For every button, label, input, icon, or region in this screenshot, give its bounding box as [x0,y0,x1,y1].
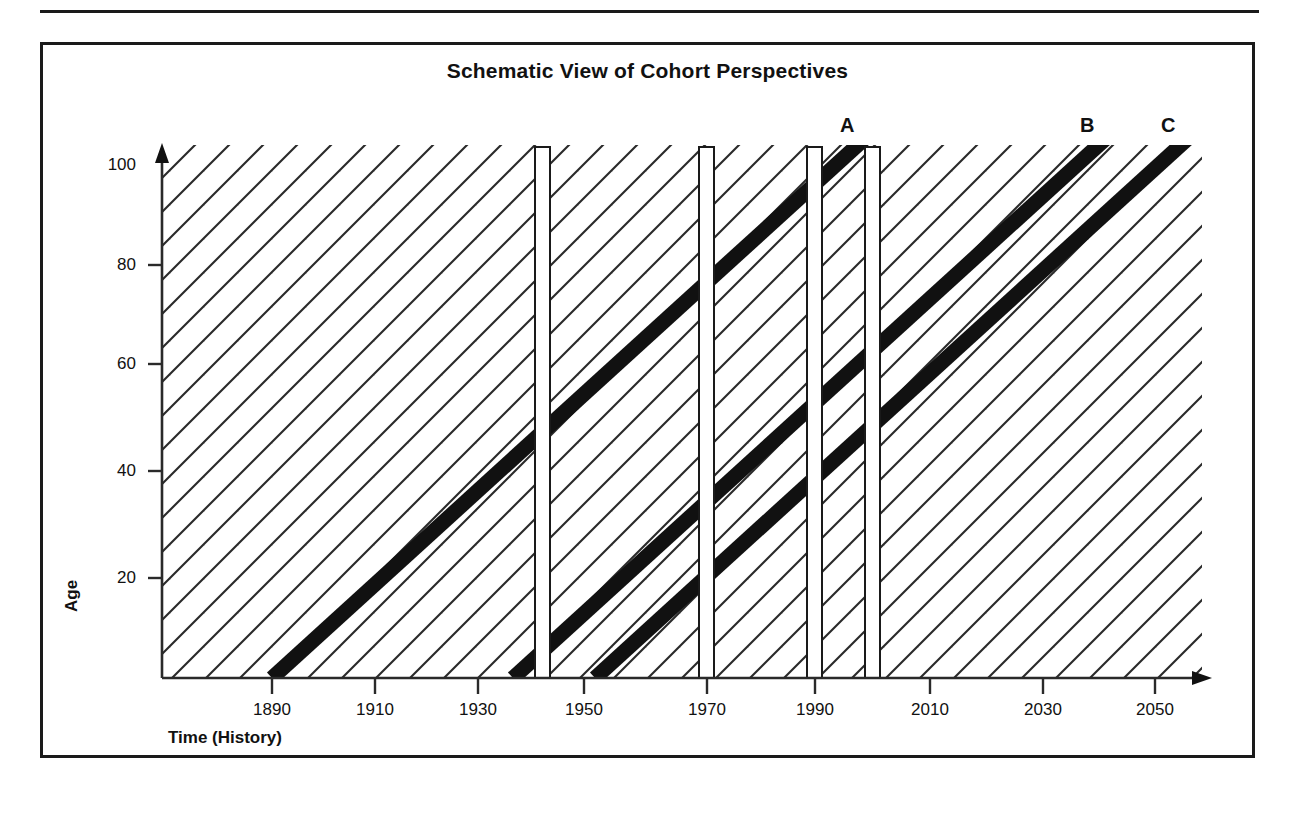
top-rule-divider [40,10,1259,13]
x-tick-label-1990: 1990 [773,700,857,720]
cohort-label-b: B [1080,114,1094,137]
cohort-label-a: A [840,114,854,137]
y-tick-label-80: 80 [78,255,136,275]
x-tick-label-1930: 1930 [436,700,520,720]
x-tick-label-2010: 2010 [888,700,972,720]
x-tick-label-1950: 1950 [542,700,626,720]
y-tick-label-100: 100 [78,155,136,175]
figure-title: Schematic View of Cohort Perspectives [43,59,1252,83]
x-tick-label-1910: 1910 [333,700,417,720]
y-tick-label-40: 40 [78,461,136,481]
x-tick-label-1970: 1970 [665,700,749,720]
x-tick-label-2050: 2050 [1113,700,1197,720]
x-axis-title: Time (History) [168,728,282,748]
x-tick-label-2030: 2030 [1001,700,1085,720]
y-tick-label-20: 20 [78,568,136,588]
figure-page: Schematic View of Cohort Perspectives [0,0,1299,820]
y-axis-title: Age [62,580,82,612]
x-tick-label-1890: 1890 [230,700,314,720]
y-tick-label-60: 60 [78,354,136,374]
figure-frame: Schematic View of Cohort Perspectives [40,42,1255,758]
cohort-label-c: C [1161,114,1175,137]
